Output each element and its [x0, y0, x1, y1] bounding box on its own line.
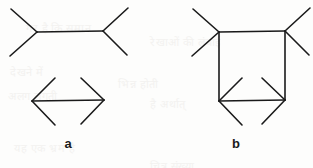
- b-fins-in-right-lower: [262, 100, 285, 124]
- b-fins-in-left-upper: [219, 78, 242, 101]
- panel-a: [10, 8, 128, 125]
- b-fins-out-left-lower: [192, 32, 219, 56]
- figure-canvas: गर है कि समानरेखाओं की लंबाईदेखने मेंभिन…: [0, 0, 313, 168]
- fins-in-left-lower: [32, 101, 55, 125]
- panel-caption-a: a: [64, 137, 71, 150]
- b-fins-in-shaft: [219, 100, 285, 101]
- fins-in-shaft: [32, 100, 104, 101]
- b-fins-out-left-upper: [193, 9, 219, 32]
- b-fins-out-right-lower: [285, 31, 309, 55]
- panel-b: [192, 8, 310, 125]
- fins-out-left-upper: [11, 9, 37, 32]
- fins-out-shaft: [37, 31, 103, 32]
- b-fins-in-left-lower: [219, 101, 242, 125]
- fins-in-right-upper: [81, 78, 104, 100]
- fins-in-right-lower: [81, 100, 104, 124]
- fins-out-left-lower: [10, 32, 37, 56]
- fins-in-left-upper: [32, 78, 55, 101]
- fins-out-right-upper: [103, 8, 128, 31]
- panel-caption-b: b: [232, 137, 240, 150]
- b-fins-out-right-upper: [285, 8, 310, 31]
- b-fins-out-shaft: [219, 31, 285, 32]
- fins-out-right-lower: [103, 31, 127, 55]
- muller-lyer-diagram: [0, 0, 313, 168]
- b-fins-in-right-upper: [262, 78, 285, 100]
